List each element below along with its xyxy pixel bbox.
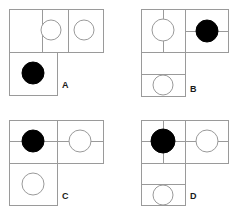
option-figure-c [7, 118, 105, 207]
white-circle-top-right [74, 20, 94, 40]
white-circle-left-top [152, 19, 174, 41]
option-panel-b[interactable] [139, 7, 230, 98]
white-circle-top-mid [41, 20, 61, 40]
white-circle-left-bottom [153, 185, 173, 205]
cell-left-middle [141, 163, 185, 184]
black-circle-top-left [22, 130, 44, 152]
white-circle-right-top [196, 130, 218, 152]
option-panel-c[interactable] [7, 118, 105, 207]
white-circle-top-right [69, 130, 91, 152]
black-circle-right-top [196, 20, 218, 42]
white-circle-left-bottom [153, 75, 173, 95]
option-figure-a [7, 7, 105, 97]
option-label-b: B [190, 85, 197, 94]
option-label-d: D [190, 192, 197, 201]
white-circle-bottom-left [22, 173, 44, 195]
option-figure-d [139, 118, 230, 207]
option-label-c: C [62, 192, 69, 201]
option-panel-a[interactable] [7, 7, 105, 97]
options-board: ABCD [0, 0, 233, 211]
option-label-a: A [62, 81, 69, 90]
cell-left-middle [141, 52, 185, 74]
option-panel-d[interactable] [139, 118, 230, 207]
black-circle-left-top [151, 129, 175, 153]
cell-top-left [9, 9, 42, 52]
option-figure-b [139, 7, 230, 98]
black-circle-bottom-left [22, 62, 44, 84]
